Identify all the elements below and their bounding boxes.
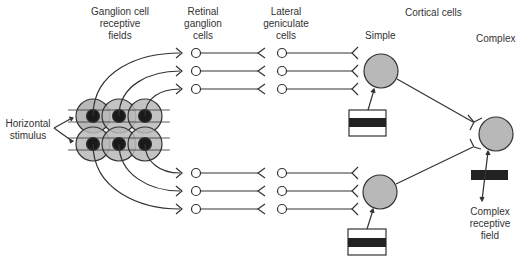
- receptive-field-grid: [68, 99, 170, 161]
- lgn-synapses: [258, 48, 265, 214]
- simple-cell-lower: [363, 175, 397, 209]
- label-lateral-geniculate-cells: Lateral geniculate cells: [258, 6, 314, 42]
- label-horizontal-stimulus: Horizontal stimulus: [2, 118, 54, 142]
- complex-receptive-field-bar: [471, 170, 508, 180]
- arrowheads: [176, 48, 182, 214]
- label-retinal-ganglion-cells: Retinal ganglion cells: [178, 6, 228, 42]
- complex-cell: [479, 117, 513, 151]
- label-simple: Simple: [365, 30, 396, 42]
- label-complex: Complex: [476, 33, 515, 45]
- label-cortical-cells: Cortical cells: [405, 7, 462, 19]
- simple-cell-upper: [364, 54, 398, 88]
- label-complex-receptive-field: Complex receptive field: [462, 206, 518, 242]
- label-ganglion-receptive-fields: Ganglion cell receptive fields: [82, 6, 158, 42]
- retinal-ganglion-cells: [192, 49, 201, 214]
- lateral-geniculate-cells: [278, 49, 287, 214]
